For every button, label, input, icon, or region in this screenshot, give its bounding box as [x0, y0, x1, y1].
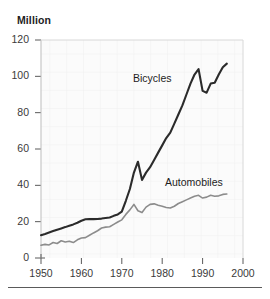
- x-tick-label: 2000: [226, 267, 260, 279]
- x-tick-label: 1960: [64, 267, 98, 279]
- chart-figure: Million 020406080100120 1950196019701980…: [0, 0, 270, 299]
- x-tick-label: 1990: [186, 267, 220, 279]
- y-tick-label: 0: [3, 251, 29, 263]
- y-tick-label: 20: [3, 215, 29, 227]
- y-tick-label: 80: [3, 106, 29, 118]
- y-tick-label: 60: [3, 142, 29, 154]
- footer-divider: [8, 287, 262, 288]
- x-tick-label: 1950: [24, 267, 58, 279]
- x-tick-label: 1970: [105, 267, 139, 279]
- x-tick-label: 1980: [145, 267, 179, 279]
- plot-canvas: [0, 0, 270, 299]
- y-tick-label: 40: [3, 178, 29, 190]
- y-tick-label: 120: [3, 33, 29, 45]
- series-label-bicycles: Bicycles: [133, 72, 172, 84]
- series-label-automobiles: Automobiles: [165, 176, 223, 188]
- y-tick-label: 100: [3, 69, 29, 81]
